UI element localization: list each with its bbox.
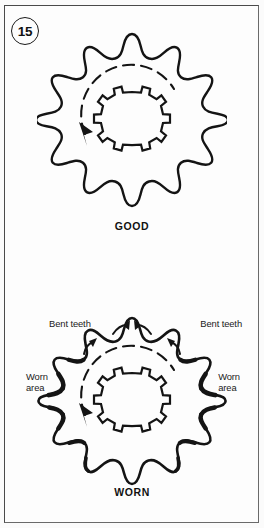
callout-worn-area-left: Worn area <box>26 372 48 393</box>
good-sprocket-drawing <box>37 22 227 217</box>
callout-bent-teeth-left: Bent teeth <box>49 319 91 330</box>
worn-sprocket-teeth-outline <box>38 318 225 484</box>
callout-bent-teeth-right: Bent teeth <box>200 319 242 330</box>
worn-sprocket-drawing <box>37 304 227 494</box>
caption-good: GOOD <box>0 220 264 232</box>
callout-worn-area-right: Worn area <box>218 372 240 393</box>
bent-teeth-arrow-top-right <box>134 320 151 334</box>
caption-worn: WORN <box>0 486 264 498</box>
worn-area-shading-left <box>49 360 89 471</box>
figure-root: 15 GOOD <box>0 0 264 528</box>
good-sprocket-hub-bore <box>94 87 170 151</box>
worn-area-shading-right <box>176 360 216 471</box>
good-rotation-arrow <box>79 65 174 146</box>
worn-sprocket-hub-bore <box>94 368 170 432</box>
panel-worn-sprocket: Bent teeth Bent teeth Worn area Worn are… <box>0 288 264 524</box>
bent-teeth-arrow-top-left <box>113 320 130 334</box>
panel-good-sprocket: GOOD <box>0 12 264 252</box>
worn-rotation-arrow <box>79 346 174 427</box>
good-sprocket-teeth-outline <box>37 34 227 206</box>
